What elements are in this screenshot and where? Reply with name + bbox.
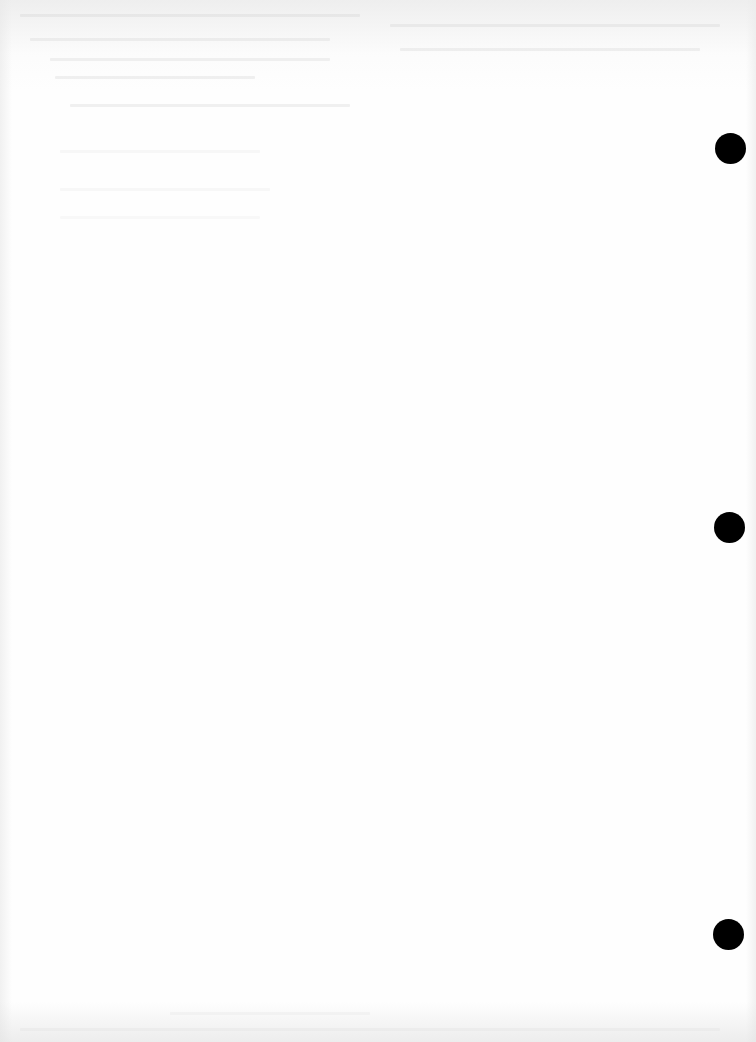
- bleed-through-line: [70, 104, 350, 107]
- punch-hole-bottom: [713, 919, 744, 950]
- scan-shade-right: [746, 0, 756, 1042]
- bleed-through-line: [55, 76, 255, 79]
- scan-shade-bottom: [0, 1002, 756, 1042]
- bleed-through-line: [170, 1012, 370, 1015]
- scan-shade-left: [0, 0, 12, 1042]
- bleed-through-line: [390, 24, 720, 27]
- bleed-through-line: [60, 188, 270, 191]
- punch-hole-middle: [714, 512, 745, 543]
- bleed-through-line: [400, 48, 700, 51]
- bleed-through-line: [60, 150, 260, 153]
- punch-hole-top: [715, 133, 746, 164]
- bleed-through-line: [60, 216, 260, 219]
- document-page: [0, 0, 756, 1042]
- bleed-through-line: [20, 1028, 720, 1031]
- bleed-through-line: [50, 58, 330, 61]
- bleed-through-line: [30, 38, 330, 41]
- bleed-through-line: [20, 14, 360, 17]
